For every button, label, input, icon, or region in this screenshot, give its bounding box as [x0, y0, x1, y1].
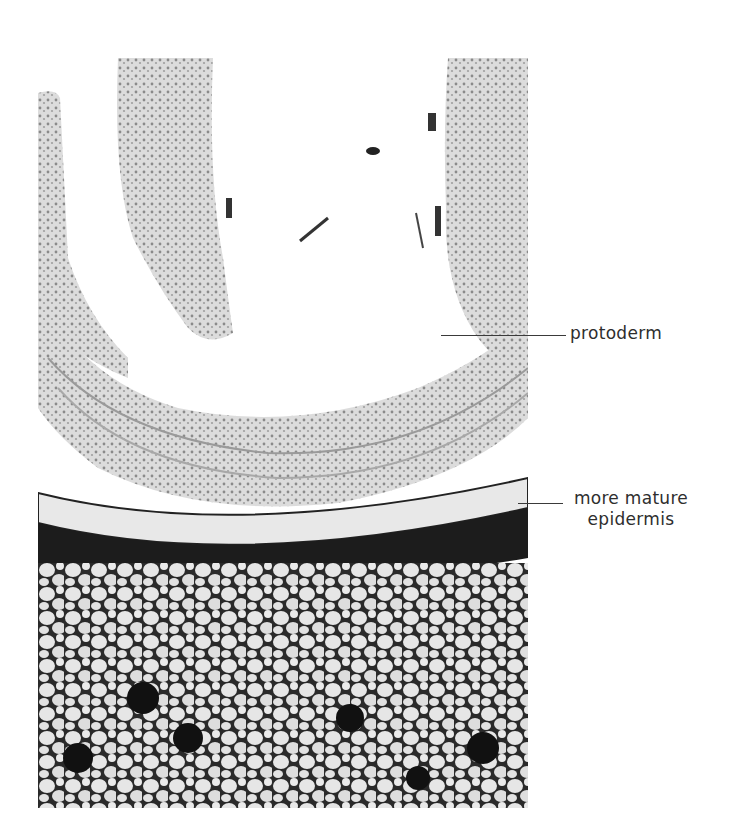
- protoderm-label: protoderm: [570, 323, 662, 344]
- micrograph-image: [38, 58, 528, 808]
- epidermis-leader-line: [518, 503, 563, 504]
- epidermis-label-line2: epidermis: [566, 509, 696, 530]
- protoderm-leader-line: [441, 335, 566, 336]
- epidermis-label: more mature epidermis: [566, 488, 696, 530]
- epidermis-label-line1: more mature: [566, 488, 696, 509]
- figure: protoderm more mature epidermis: [0, 0, 755, 839]
